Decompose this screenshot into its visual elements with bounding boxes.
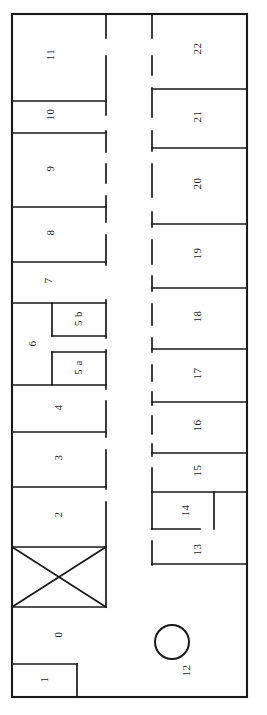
room-label-text: 10 [45,85,56,145]
room-label-text: 8 [45,203,56,263]
room-label-text: 6 [27,314,38,374]
room-label-18: 18 [167,311,227,325]
room-label-13: 13 [167,544,227,558]
room-label-4: 4 [28,402,88,416]
stairwell-cross [12,547,106,607]
room-label-text: 18 [192,287,203,347]
room-label-text: 21 [192,87,203,147]
floor-plan-geometry [0,0,267,715]
room-label-3: 3 [28,452,88,466]
room-label-text: 2 [53,485,64,545]
room-label-text: 22 [192,19,203,79]
room-label-22: 22 [167,43,227,57]
room-label-11: 11 [20,49,80,63]
room-label-1: 1 [14,674,74,688]
room-label-17: 17 [167,368,227,382]
room-label-20: 20 [167,178,227,192]
room-label-16: 16 [167,420,227,434]
room-label-text: 16 [192,396,203,456]
room-label-15: 15 [167,465,227,479]
room-label-21: 21 [167,111,227,125]
room-label-2: 2 [28,509,88,523]
room-label-text: 4 [53,378,64,438]
room-label-text: 13 [192,520,203,580]
room-label-text: 17 [192,344,203,404]
floor-plan-diagram: 012345 a5 b67891011121314151617181920212… [0,0,267,715]
room-label-5a: 5 a [48,362,108,376]
room-label-text: 1 [39,650,50,710]
room-label-text: 9 [45,139,56,199]
room-label-10: 10 [20,109,80,123]
room-label-text: 5 b [73,289,84,349]
room-label-text: 11 [45,25,56,85]
room-label-6: 6 [2,338,62,352]
room-label-19: 19 [167,248,227,262]
room-label-7: 7 [18,275,78,289]
room-label-5b: 5 b [48,313,108,327]
room-label-text: 14 [180,481,191,541]
room-label-0: 0 [28,629,88,643]
room-label-text: 19 [192,224,203,284]
room-label-9: 9 [20,163,80,177]
room-label-12: 12 [156,665,216,679]
room-label-text: 20 [192,154,203,214]
room-label-text: 0 [53,605,64,665]
room-label-8: 8 [20,227,80,241]
room-label-text: 12 [181,641,192,701]
room-label-14: 14 [155,505,215,519]
